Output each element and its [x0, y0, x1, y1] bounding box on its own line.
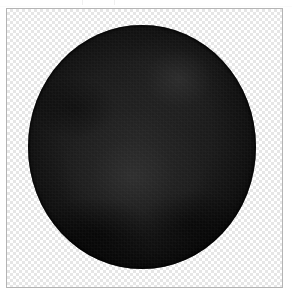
artifact-tick-left [82, 0, 83, 5]
canvas-frame[interactable] [6, 8, 283, 288]
image-viewer-root [0, 0, 292, 299]
artifact-tick-right [114, 0, 115, 5]
top-edge-artifacts [0, 0, 292, 7]
artifact-hairline [0, 6, 292, 7]
sphere-rim-edge [28, 25, 256, 269]
subject-layer [7, 9, 282, 287]
